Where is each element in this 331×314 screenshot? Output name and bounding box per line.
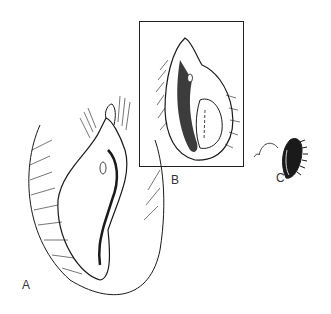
panel-label-c: C — [276, 171, 285, 185]
inset-frame-b — [139, 21, 244, 167]
panel-label-b: B — [171, 173, 179, 187]
panel-label-a: A — [22, 278, 30, 292]
medical-illustration-figure: A B C — [0, 0, 331, 314]
